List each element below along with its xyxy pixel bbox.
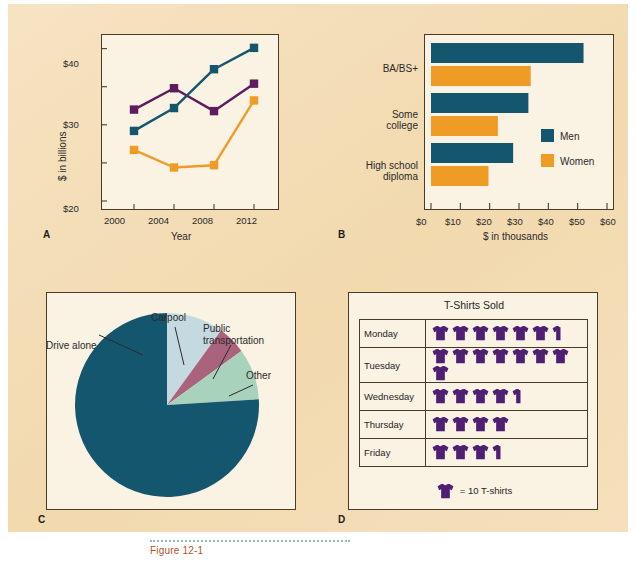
tshirt-icon — [471, 348, 490, 365]
tshirt-icon-row — [426, 348, 588, 383]
panel-b-plot-area — [424, 34, 614, 210]
category-label-line: Some — [392, 109, 418, 120]
tshirt-icon — [471, 416, 490, 433]
tshirt-icon-row — [426, 383, 588, 411]
tshirt-half-icon — [551, 325, 570, 342]
category-label-some-college: Some college — [338, 109, 418, 131]
panel-a-line-chart: $20 $30 $40 $ in billions 2000 2004 2008… — [43, 26, 303, 256]
tshirt-icon — [471, 444, 490, 461]
pictograph-key-label: = 10 T-shirts — [460, 485, 512, 496]
table-row: Tuesday — [360, 348, 588, 383]
tshirt-icon — [431, 325, 450, 342]
figure-plate: $20 $30 $40 $ in billions 2000 2004 2008… — [8, 4, 628, 532]
tshirt-icon — [531, 348, 550, 365]
caption-rule — [150, 540, 350, 544]
tshirt-icon — [491, 348, 510, 365]
tshirt-icon-row — [426, 411, 588, 439]
tshirt-icon — [436, 485, 455, 496]
panel-letter-a: A — [43, 229, 51, 240]
pie-label-other: Other — [246, 370, 271, 382]
pie-label-line-2: transportation — [203, 335, 264, 346]
x-tick-label-60: $60 — [600, 216, 616, 227]
tshirt-icon — [431, 348, 450, 365]
tshirt-icon — [491, 388, 510, 405]
category-label-line: High school — [366, 160, 418, 171]
legend-label-women: Women — [560, 156, 594, 167]
table-row: Friday — [360, 439, 588, 467]
panel-d-plot-area: T-Shirts Sold Monday TuesdayWednesday Th… — [348, 292, 598, 510]
pie-label-line-1: Public — [203, 323, 230, 334]
day-label: Tuesday — [360, 348, 426, 383]
tshirt-icon — [451, 388, 470, 405]
y-tick-label-20: $20 — [63, 203, 79, 214]
category-label-high-school: High school diploma — [338, 160, 418, 182]
y-axis-title: $ in billions — [57, 132, 68, 181]
tshirt-icon — [511, 348, 530, 365]
x-tick-label-2000: 2000 — [104, 215, 125, 226]
pie-label-drive-alone: Drive alone — [46, 340, 97, 352]
pie-label-carpool: Carpool — [151, 312, 186, 324]
x-tick-label-2004: 2004 — [148, 215, 169, 226]
pictograph-key: = 10 T-shirts — [349, 483, 599, 500]
tshirt-icon — [531, 325, 550, 342]
line-chart-svg — [102, 35, 278, 209]
legend-swatch-women — [541, 154, 554, 167]
x-tick-label-10: $10 — [445, 216, 461, 227]
x-tick-label-2012: 2012 — [236, 215, 257, 226]
tshirt-icon — [431, 416, 450, 433]
tshirt-icon — [451, 325, 470, 342]
tshirt-icon — [431, 365, 450, 382]
bar-chart-svg — [425, 35, 613, 209]
category-label-line: diploma — [383, 171, 418, 182]
legend-label-men: Men — [560, 131, 579, 142]
figure-page: $20 $30 $40 $ in billions 2000 2004 2008… — [0, 0, 636, 567]
tshirt-icon — [491, 325, 510, 342]
x-tick-label-40: $40 — [538, 216, 554, 227]
tshirt-icon — [471, 325, 490, 342]
panel-letter-d: D — [338, 514, 346, 525]
table-row: Wednesday — [360, 383, 588, 411]
x-tick-label-50: $50 — [569, 216, 585, 227]
y-tick-label-30: $30 — [63, 119, 79, 130]
tshirt-icon — [431, 388, 450, 405]
tshirt-icon-row — [426, 439, 588, 467]
x-tick-label-0: $0 — [416, 216, 427, 227]
day-label: Friday — [360, 439, 426, 467]
tshirt-icon — [471, 388, 490, 405]
tshirt-icon — [451, 348, 470, 365]
tshirt-half-icon — [511, 388, 530, 405]
y-tick-label-40: $40 — [63, 58, 79, 69]
x-tick-label-30: $30 — [507, 216, 523, 227]
x-axis-title: $ in thousands — [483, 231, 548, 242]
tshirt-icon — [491, 416, 510, 433]
tshirt-half-icon — [491, 444, 510, 461]
tshirts-table: Monday TuesdayWednesday ThursdayFriday — [359, 319, 588, 467]
category-label-ba-bs: BA/BS+ — [338, 63, 418, 74]
x-tick-label-2008: 2008 — [192, 215, 213, 226]
category-label-line: college — [386, 120, 418, 131]
panel-letter-c: C — [38, 514, 46, 525]
x-axis-title: Year — [171, 231, 191, 242]
legend-entry-women: Women — [541, 154, 594, 167]
day-label: Wednesday — [360, 383, 426, 411]
tshirt-icon — [511, 325, 530, 342]
day-label: Thursday — [360, 411, 426, 439]
table-row: Thursday — [360, 411, 588, 439]
panel-a-plot-area — [101, 34, 279, 210]
pie-label-public-transportation: Public transportation — [203, 323, 295, 346]
figure-caption: Figure 12-1 — [150, 545, 203, 556]
x-tick-label-20: $20 — [476, 216, 492, 227]
day-label: Monday — [360, 320, 426, 348]
tshirt-icon — [431, 444, 450, 461]
panel-d-pictograph: T-Shirts Sold Monday TuesdayWednesday Th… — [338, 292, 623, 530]
pictograph-title: T-Shirts Sold — [349, 299, 599, 311]
table-row: Monday — [360, 320, 588, 348]
legend-entry-men: Men — [541, 129, 579, 142]
panel-b-bar-chart: BA/BS+ Some college High school diploma … — [338, 26, 623, 256]
legend-swatch-men — [541, 129, 554, 142]
tshirt-icon — [551, 348, 570, 365]
tshirt-icon-row — [426, 320, 588, 348]
panel-letter-b: B — [338, 229, 346, 240]
tshirt-icon — [451, 444, 470, 461]
panel-c-pie-chart: Drive alone Carpool Public transportatio… — [38, 292, 313, 530]
